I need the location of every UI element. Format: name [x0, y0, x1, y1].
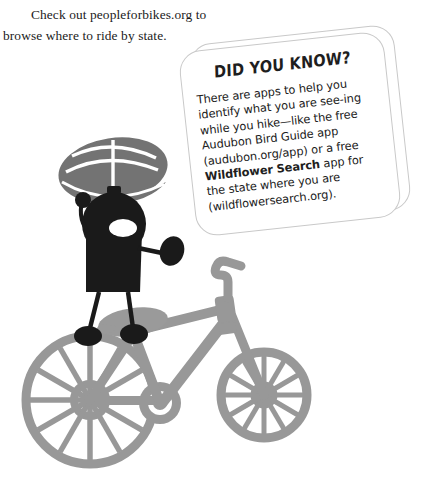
figure-body: [82, 192, 146, 292]
illustration: [0, 120, 423, 482]
page-canvas: Check out peopleforbikes.org to browse w…: [0, 0, 423, 482]
figure-face-hole: [109, 219, 137, 237]
figure-foot-left: [74, 326, 102, 346]
figure-foot-right: [120, 324, 148, 344]
bicycle-silhouette: [26, 261, 307, 464]
figure-arm: [138, 233, 188, 269]
strap-buckle: [75, 192, 91, 208]
helmet-clip: [107, 186, 121, 194]
handlebar: [215, 261, 241, 298]
